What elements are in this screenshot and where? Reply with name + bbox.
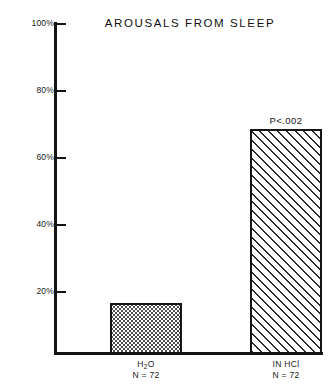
y-tick-mark-80 <box>57 90 66 92</box>
category-name-water-subscript: 2 <box>144 363 148 370</box>
bar-water <box>110 303 182 354</box>
y-tick-label-60: 60% <box>10 152 54 162</box>
y-tick-label-80: 80% <box>10 85 54 95</box>
bar-chart: AROUSALS FROM SLEEP 100% 80% 60% 40% 20%… <box>0 0 335 390</box>
y-tick-mark-20 <box>57 291 66 293</box>
y-tick-mark-100 <box>57 23 66 25</box>
category-label-hydrochloric-acid: IN HCl N = 72 <box>250 359 322 381</box>
category-name-water-prefix: H <box>137 359 143 369</box>
category-name-water-suffix: O <box>148 359 155 369</box>
category-name-water: H2O <box>110 359 182 370</box>
category-name-hydrochloric-acid: IN HCl <box>250 359 322 370</box>
y-tick-mark-40 <box>57 224 66 226</box>
category-label-water: H2O N = 72 <box>110 359 182 381</box>
bar-hydrochloric-acid <box>250 129 322 354</box>
sample-size-water: N = 72 <box>110 370 182 381</box>
y-tick-label-100: 100% <box>10 18 54 28</box>
y-tick-mark-60 <box>57 157 66 159</box>
p-value-annotation: P<.002 <box>250 115 322 126</box>
y-tick-label-40: 40% <box>10 219 54 229</box>
y-axis-line <box>54 22 57 355</box>
sample-size-hydrochloric-acid: N = 72 <box>250 370 322 381</box>
chart-title: AROUSALS FROM SLEEP <box>60 17 320 29</box>
y-tick-label-20: 20% <box>10 286 54 296</box>
